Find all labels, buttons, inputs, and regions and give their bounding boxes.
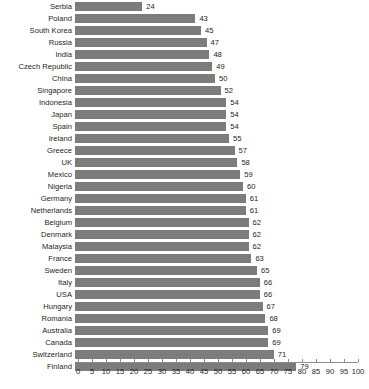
bar-row: Hungary67 (0, 300, 369, 312)
category-label: Sweden (0, 266, 75, 275)
bar[interactable] (75, 134, 229, 143)
bar-row: Netherlands61 (0, 204, 369, 216)
bar-value-label: 49 (212, 62, 224, 71)
bar[interactable] (75, 206, 246, 215)
bar[interactable] (75, 74, 215, 83)
bar[interactable] (75, 338, 268, 347)
bar[interactable] (75, 14, 195, 23)
bar[interactable] (75, 326, 268, 335)
x-axis-tick (344, 359, 345, 362)
bar-track: 63 (75, 252, 369, 264)
bar-row: Romania68 (0, 312, 369, 324)
bar-track: 59 (75, 168, 369, 180)
category-label: Ireland (0, 134, 75, 143)
bar-track: 45 (75, 24, 369, 36)
bar-row: Greece57 (0, 144, 369, 156)
bar[interactable] (75, 194, 246, 203)
bar[interactable] (75, 86, 221, 95)
x-axis-tick (106, 359, 107, 362)
bar[interactable] (75, 302, 263, 311)
bar-track: 62 (75, 228, 369, 240)
bar[interactable] (75, 170, 240, 179)
bar[interactable] (75, 50, 209, 59)
x-axis-tick-label: 100 (352, 367, 365, 376)
bar-row: India48 (0, 48, 369, 60)
bar-row: Russia47 (0, 36, 369, 48)
bar-row: Japan54 (0, 108, 369, 120)
bar[interactable] (75, 218, 249, 227)
category-label: Germany (0, 194, 75, 203)
bar-track: 67 (75, 300, 369, 312)
bar[interactable] (75, 182, 243, 191)
x-axis-tick-label: 80 (298, 367, 306, 376)
category-label: Poland (0, 14, 75, 23)
bar[interactable] (75, 266, 257, 275)
bar[interactable] (75, 314, 265, 323)
bar-track: 54 (75, 108, 369, 120)
category-label: France (0, 254, 75, 263)
x-axis-tick-label: 60 (242, 367, 250, 376)
bar-row: Poland43 (0, 12, 369, 24)
category-label: Netherlands (0, 206, 75, 215)
x-axis-tick-label: 30 (158, 367, 166, 376)
category-label: Hungary (0, 302, 75, 311)
bar-track: 62 (75, 240, 369, 252)
x-axis-tick (148, 359, 149, 362)
x-axis-tick (274, 359, 275, 362)
bar[interactable] (75, 98, 226, 107)
bar[interactable] (75, 26, 201, 35)
bar-value-label: 69 (268, 326, 280, 335)
category-label: Russia (0, 38, 75, 47)
x-axis-tick-label: 35 (172, 367, 180, 376)
bar-value-label: 69 (268, 338, 280, 347)
bar-value-label: 66 (260, 290, 272, 299)
bar[interactable] (75, 146, 235, 155)
bar-row: Indonesia54 (0, 96, 369, 108)
bar[interactable] (75, 242, 249, 251)
category-label: Serbia (0, 2, 75, 11)
bar-row: Australia69 (0, 324, 369, 336)
bar-value-label: 66 (260, 278, 272, 287)
x-axis-tick (330, 359, 331, 362)
x-axis-tick (218, 359, 219, 362)
bar-track: 54 (75, 96, 369, 108)
bar-track: 47 (75, 36, 369, 48)
bar[interactable] (75, 2, 142, 11)
bar-row: Nigeria60 (0, 180, 369, 192)
bar-value-label: 43 (195, 14, 207, 23)
bar[interactable] (75, 158, 237, 167)
bar-track: 65 (75, 264, 369, 276)
x-axis-tick (190, 359, 191, 362)
x-axis-tick (246, 359, 247, 362)
bar-value-label: 54 (226, 110, 238, 119)
bar[interactable] (75, 122, 226, 131)
category-label: China (0, 74, 75, 83)
bar-row: Malaysia62 (0, 240, 369, 252)
x-axis-tick-label: 70 (270, 367, 278, 376)
bar-row: France63 (0, 252, 369, 264)
bar[interactable] (75, 350, 274, 359)
category-label: India (0, 50, 75, 59)
bar-track: 62 (75, 216, 369, 228)
category-label: Belgium (0, 218, 75, 227)
bar[interactable] (75, 38, 207, 47)
bar-value-label: 50 (215, 74, 227, 83)
category-label: Indonesia (0, 98, 75, 107)
bar-row: Belgium62 (0, 216, 369, 228)
bar-value-label: 48 (209, 50, 221, 59)
bar-row: Mexico59 (0, 168, 369, 180)
bar[interactable] (75, 230, 249, 239)
category-label: Denmark (0, 230, 75, 239)
bar[interactable] (75, 278, 260, 287)
bar-track: 66 (75, 288, 369, 300)
bar-row: USA66 (0, 288, 369, 300)
bar-track: 58 (75, 156, 369, 168)
x-axis-tick (232, 359, 233, 362)
bar-value-label: 45 (201, 26, 213, 35)
bar[interactable] (75, 62, 212, 71)
bar[interactable] (75, 110, 226, 119)
x-axis-tick-label: 85 (312, 367, 320, 376)
bar[interactable] (75, 290, 260, 299)
bar[interactable] (75, 254, 251, 263)
bar-row: Italy66 (0, 276, 369, 288)
